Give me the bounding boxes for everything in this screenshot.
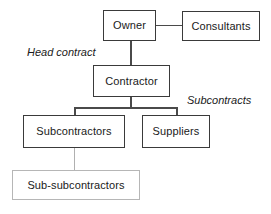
node-owner-label: Owner bbox=[113, 20, 146, 31]
node-sub-subcontractors-label: Sub-subcontractors bbox=[27, 180, 124, 191]
edge-owner-to-contractor bbox=[130, 40, 132, 66]
contractual-hierarchy-diagram: Owner Consultants Contractor Subcontract… bbox=[0, 0, 271, 214]
node-subcontractors-label: Subcontractors bbox=[36, 126, 111, 137]
edge-subcontractors-to-sub-subcontractors bbox=[74, 147, 75, 171]
node-consultants: Consultants bbox=[182, 11, 260, 41]
node-subcontractors: Subcontractors bbox=[23, 115, 125, 148]
annotation-subcontracts: Subcontracts bbox=[187, 95, 251, 106]
annotation-head-contract: Head contract bbox=[27, 47, 95, 58]
node-contractor-label: Contractor bbox=[105, 76, 157, 87]
node-suppliers-label: Suppliers bbox=[153, 126, 200, 137]
node-owner: Owner bbox=[103, 10, 156, 41]
edge-owner-to-consultants bbox=[155, 25, 183, 26]
node-sub-subcontractors: Sub-subcontractors bbox=[12, 170, 140, 200]
node-contractor: Contractor bbox=[93, 65, 170, 97]
node-consultants-label: Consultants bbox=[191, 21, 250, 32]
node-suppliers: Suppliers bbox=[142, 115, 210, 148]
edge-subcontract-bus bbox=[74, 107, 178, 109]
